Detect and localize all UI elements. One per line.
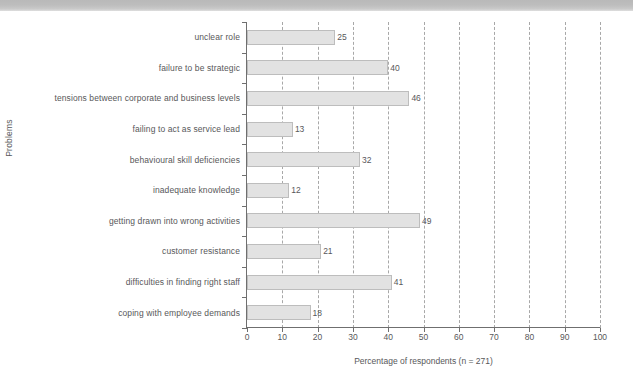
category-label: failing to act as service lead	[133, 124, 240, 134]
x-tick-10	[282, 328, 283, 332]
x-tick-20	[318, 328, 319, 332]
category-label: coping with employee demands	[118, 308, 240, 318]
bar-value-label: 32	[362, 155, 371, 165]
x-tick-label-20: 20	[313, 332, 322, 342]
bar: 41	[247, 275, 392, 290]
x-tick-30	[353, 328, 354, 332]
bar: 32	[247, 152, 360, 167]
bar-row: customer resistance21	[247, 236, 600, 267]
bar-row: failure to be strategic40	[247, 53, 600, 84]
bar-row: failing to act as service lead13	[247, 114, 600, 145]
x-tick-label-90: 90	[560, 332, 569, 342]
y-tick	[242, 297, 247, 298]
bar-value-label: 12	[291, 185, 300, 195]
category-label: getting drawn into wrong activities	[109, 216, 240, 226]
bar-value-label: 25	[337, 32, 346, 42]
bar: 40	[247, 60, 388, 75]
bar-row: unclear role25	[247, 22, 600, 53]
bar: 12	[247, 183, 289, 198]
bar-value-label: 40	[390, 63, 399, 73]
y-tick	[242, 175, 247, 176]
x-tick-40	[388, 328, 389, 332]
x-tick-label-0: 0	[245, 332, 250, 342]
x-tick-90	[565, 328, 566, 332]
gridline-100	[600, 22, 601, 328]
bar-row: getting drawn into wrong activities49	[247, 206, 600, 237]
y-tick	[242, 53, 247, 54]
y-tick	[242, 83, 247, 84]
x-tick-60	[459, 328, 460, 332]
x-tick-0	[247, 328, 248, 332]
plot-area: unclear role25failure to be strategic40t…	[247, 22, 600, 328]
x-tick-label-60: 60	[454, 332, 463, 342]
y-tick	[242, 22, 247, 23]
figure-bar-chart: Problems unclear role25failure to be str…	[0, 0, 633, 377]
bar: 46	[247, 91, 409, 106]
bar: 49	[247, 213, 420, 228]
category-label: customer resistance	[162, 246, 240, 256]
x-axis-title: Percentage of respondents (n = 271)	[247, 356, 600, 366]
y-tick	[242, 328, 247, 329]
bar-value-label: 18	[313, 308, 322, 318]
x-tick-100	[600, 328, 601, 332]
y-tick	[242, 206, 247, 207]
caption-banner	[0, 0, 633, 11]
y-axis-title: Problems	[4, 98, 14, 178]
bar-row: tensions between corporate and business …	[247, 83, 600, 114]
y-tick	[242, 114, 247, 115]
y-tick	[242, 267, 247, 268]
x-tick-label-10: 10	[278, 332, 287, 342]
bar-value-label: 13	[295, 124, 304, 134]
bar-rows: unclear role25failure to be strategic40t…	[247, 22, 600, 328]
y-tick	[242, 144, 247, 145]
x-tick-80	[529, 328, 530, 332]
bar-row: inadequate knowledge12	[247, 175, 600, 206]
category-label: failure to be strategic	[159, 63, 240, 73]
category-label: inadequate knowledge	[153, 185, 240, 195]
x-tick-label-50: 50	[419, 332, 428, 342]
x-tick-label-100: 100	[593, 332, 607, 342]
x-tick-label-30: 30	[348, 332, 357, 342]
bar-value-label: 41	[394, 277, 403, 287]
category-label: difficulties in finding right staff	[126, 277, 240, 287]
bar: 13	[247, 122, 293, 137]
x-tick-label-40: 40	[383, 332, 392, 342]
bar-value-label: 46	[411, 93, 420, 103]
category-label: behavioural skill deficiencies	[130, 155, 240, 165]
category-label: tensions between corporate and business …	[54, 93, 240, 103]
y-tick	[242, 236, 247, 237]
bar-row: coping with employee demands18	[247, 297, 600, 328]
x-tick-label-70: 70	[489, 332, 498, 342]
x-tick-label-80: 80	[525, 332, 534, 342]
bar-row: difficulties in finding right staff41	[247, 267, 600, 298]
bar-row: behavioural skill deficiencies32	[247, 144, 600, 175]
x-tick-50	[424, 328, 425, 332]
category-label: unclear role	[194, 32, 240, 42]
bar: 21	[247, 244, 321, 259]
bar: 25	[247, 30, 335, 45]
x-tick-70	[494, 328, 495, 332]
bar-value-label: 21	[323, 246, 332, 256]
bar: 18	[247, 305, 311, 320]
bar-value-label: 49	[422, 216, 431, 226]
